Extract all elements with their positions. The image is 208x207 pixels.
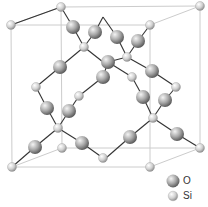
oxygen-atom bbox=[158, 93, 172, 107]
oxygen-atom bbox=[66, 20, 80, 34]
oxygen-atom bbox=[75, 136, 89, 150]
oxygen-atom bbox=[88, 25, 102, 39]
silicon-atom bbox=[7, 21, 16, 30]
legend-label-oxygen: O bbox=[183, 175, 191, 186]
legend-item-oxygen: O bbox=[166, 173, 208, 188]
silicon-atom bbox=[57, 3, 66, 12]
silicon-atom bbox=[146, 163, 155, 172]
silicon-atom-icon bbox=[166, 189, 180, 203]
silicon-atom bbox=[172, 83, 181, 92]
silicon-atom bbox=[8, 163, 17, 172]
oxygen-atom bbox=[170, 127, 184, 141]
oxygen-atom-icon bbox=[166, 174, 180, 188]
oxygen-atom bbox=[96, 70, 110, 84]
silicon-atom bbox=[196, 144, 205, 153]
cube-edge bbox=[150, 6, 200, 25]
oxygen-atom bbox=[131, 34, 145, 48]
silicon-atom bbox=[58, 144, 67, 153]
silicon-atom bbox=[149, 114, 158, 123]
legend-item-silicon: Si bbox=[166, 188, 208, 203]
cube-edge bbox=[61, 6, 200, 7]
cube-edge bbox=[11, 25, 12, 167]
silicon-atom bbox=[32, 83, 41, 92]
silicon-atom bbox=[146, 21, 155, 30]
oxygen-atom bbox=[62, 104, 76, 118]
silicon-atom bbox=[123, 53, 132, 62]
atoms bbox=[7, 2, 205, 172]
silicon-atom bbox=[54, 124, 63, 133]
legend: O Si bbox=[166, 173, 208, 203]
silicon-atom bbox=[196, 2, 205, 11]
silicon-atom bbox=[99, 154, 108, 163]
oxygen-atom bbox=[136, 90, 150, 104]
oxygen-atom bbox=[110, 30, 124, 44]
bond bbox=[11, 7, 61, 25]
oxygen-atom bbox=[53, 60, 67, 74]
oxygen-atom bbox=[101, 55, 115, 69]
silicon-atom bbox=[128, 73, 137, 82]
oxygen-atom bbox=[145, 64, 159, 78]
oxygen-atom bbox=[123, 130, 137, 144]
silicon-atom bbox=[80, 43, 89, 52]
oxygen-atom bbox=[28, 140, 42, 154]
legend-label-silicon: Si bbox=[183, 190, 192, 201]
oxygen-atom bbox=[40, 101, 54, 115]
cube-edge bbox=[150, 148, 200, 167]
silicon-atom bbox=[75, 92, 84, 101]
